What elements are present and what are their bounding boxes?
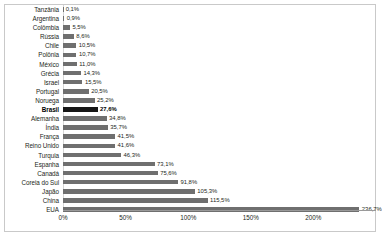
bar-track: 8,6%	[63, 32, 376, 41]
bar-value-label: 91,8%	[178, 178, 197, 187]
bar	[63, 198, 208, 203]
bar-row: Chile10,5%	[0, 41, 376, 50]
bar-track: 5,5%	[63, 23, 376, 32]
bar-category-label: Índia	[0, 123, 63, 132]
x-axis-tick-label: 150%	[243, 214, 259, 222]
bar	[63, 107, 98, 112]
bar-row: México11,0%	[0, 60, 376, 69]
bar-row: Espanha73,1%	[0, 160, 376, 169]
bar-value-label: 27,6%	[98, 105, 117, 114]
bar-row: Japão105,3%	[0, 187, 376, 196]
bar-row: Brasil27,6%	[0, 105, 376, 114]
bar-track: 105,3%	[63, 187, 376, 196]
bar-value-label: 15,5%	[82, 78, 101, 87]
bar-track: 0,9%	[63, 14, 376, 23]
bar-row: Colômbia5,5%	[0, 23, 376, 32]
bar-track: 35,7%	[63, 123, 376, 132]
bar-category-label: Argentina	[0, 14, 63, 23]
bar-track: 34,8%	[63, 114, 376, 123]
bar-value-label: 10,5%	[76, 41, 95, 50]
bar	[63, 125, 108, 130]
bar-row: Argentina0,9%	[0, 14, 376, 23]
bar-category-label: China	[0, 196, 63, 205]
x-axis-line	[63, 210, 376, 211]
bar-category-label: Alemanha	[0, 114, 63, 123]
bar-value-label: 41,5%	[115, 132, 134, 141]
bar-row: Tanzânia0,1%	[0, 5, 376, 14]
bar-value-label: 35,7%	[108, 123, 127, 132]
bar-category-label: Tanzânia	[0, 5, 63, 14]
bar-category-label: Canadá	[0, 169, 63, 178]
bar-category-label: Portugal	[0, 87, 63, 96]
bar	[63, 89, 89, 94]
bar-value-label: 5,5%	[70, 23, 86, 32]
bar-value-label: 73,1%	[155, 160, 174, 169]
bar	[63, 71, 81, 76]
bar	[63, 43, 76, 48]
bar-value-label: 0,9%	[64, 14, 80, 23]
bar	[63, 162, 155, 167]
bar-value-label: 8,6%	[74, 32, 90, 41]
bar-track: 14,3%	[63, 69, 376, 78]
bar-category-label: Japão	[0, 187, 63, 196]
bar-value-label: 25,2%	[95, 96, 114, 105]
x-axis: 0%50%100%150%200%	[0, 210, 376, 232]
bar-category-label: Reino Unido	[0, 141, 63, 150]
bar-value-label: 41,6%	[115, 141, 134, 150]
bar-track: 46,3%	[63, 151, 376, 160]
bar-row: Noruega25,2%	[0, 96, 376, 105]
bar	[63, 116, 107, 121]
bar-row: Turquia46,3%	[0, 151, 376, 160]
bar-value-label: 105,3%	[195, 187, 217, 196]
bar-category-label: Israel	[0, 78, 63, 87]
bar-category-label: Espanha	[0, 160, 63, 169]
bar-row: Índia35,7%	[0, 123, 376, 132]
bar	[63, 25, 70, 30]
bar-track: 10,7%	[63, 50, 376, 59]
bar-category-label: Rússia	[0, 32, 63, 41]
bar-row: Portugal20,5%	[0, 87, 376, 96]
bar	[63, 98, 95, 103]
bar-value-label: 46,3%	[121, 151, 140, 160]
bar-value-label: 0,1%	[63, 5, 79, 14]
bar-track: 41,6%	[63, 141, 376, 150]
bar-track: 91,8%	[63, 178, 376, 187]
bar-track: 20,5%	[63, 87, 376, 96]
bar-row: Canadá75,6%	[0, 169, 376, 178]
x-axis-tick-label: 100%	[180, 214, 196, 222]
bar-track: 75,6%	[63, 169, 376, 178]
bar-row: Coreia do Sul91,8%	[0, 178, 376, 187]
bar-category-label: França	[0, 132, 63, 141]
bar-value-label: 11,0%	[77, 60, 96, 69]
bar-track: 41,5%	[63, 132, 376, 141]
bar	[63, 171, 158, 176]
bar-track: 15,5%	[63, 78, 376, 87]
bar-category-label: Chile	[0, 41, 63, 50]
x-axis-tick-label: 0%	[58, 214, 67, 222]
bar	[63, 134, 115, 139]
bar-category-label: Grécia	[0, 69, 63, 78]
bar	[63, 153, 121, 158]
bar-row: Reino Unido41,6%	[0, 141, 376, 150]
bar	[63, 62, 77, 67]
bar-value-label: 20,5%	[89, 87, 108, 96]
bar	[63, 189, 195, 194]
bar-category-label: Colômbia	[0, 23, 63, 32]
bar-value-label: 14,3%	[81, 69, 100, 78]
bar-row: Grécia14,3%	[0, 69, 376, 78]
bar-track: 10,5%	[63, 41, 376, 50]
bar-track: 27,6%	[63, 105, 376, 114]
bar-row: Polônia10,7%	[0, 50, 376, 59]
bar	[63, 180, 178, 185]
bar-category-label: Turquia	[0, 151, 63, 160]
bar-track: 115,5%	[63, 196, 376, 205]
figure-caption	[5, 236, 376, 244]
bar-row: Alemanha34,8%	[0, 114, 376, 123]
bar	[63, 80, 82, 85]
x-axis-tick-label: 200%	[305, 214, 321, 222]
bar-value-label: 10,7%	[76, 50, 95, 59]
bar-category-label: México	[0, 60, 63, 69]
bar-category-label: Noruega	[0, 96, 63, 105]
bar-value-label: 34,8%	[107, 114, 126, 123]
bar-track: 25,2%	[63, 96, 376, 105]
